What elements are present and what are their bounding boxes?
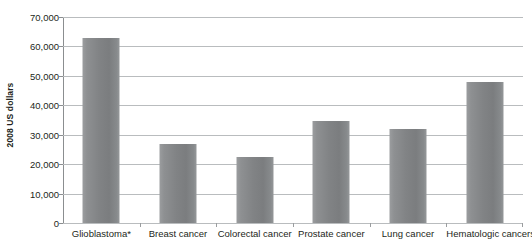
y-axis-tick-label: 70,000: [13, 12, 59, 23]
x-axis-category-label: Glioblastoma*: [63, 228, 140, 239]
x-axis-category-label: Hematologic cancers: [446, 228, 523, 239]
bar-slot: [293, 17, 370, 223]
bar: [83, 38, 120, 223]
y-axis-tick-label: 10,000: [13, 188, 59, 199]
x-axis-category-label: Prostate cancer: [293, 228, 370, 239]
x-axis-tick-mark: [293, 223, 294, 227]
bar-slot: [370, 17, 447, 223]
bar-chart: 2008 US dollars 010,00020,00030,00040,00…: [0, 0, 532, 250]
x-axis-tick-mark: [446, 223, 447, 227]
x-axis-category-label: Breast cancer: [140, 228, 217, 239]
bar-slot: [216, 17, 293, 223]
bar: [466, 82, 503, 223]
x-axis-tick-mark: [370, 223, 371, 227]
bar: [389, 129, 426, 223]
bar-slot: [140, 17, 217, 223]
bar-slot: [63, 17, 140, 223]
y-axis-tick-label: 60,000: [13, 41, 59, 52]
y-axis-tick-label: 40,000: [13, 100, 59, 111]
x-axis-tick-mark: [522, 223, 523, 227]
y-axis-tick-mark: [59, 223, 63, 224]
y-axis-tick-label: 50,000: [13, 70, 59, 81]
x-axis-category-labels: Glioblastoma*Breast cancerColorectal can…: [63, 228, 523, 250]
x-axis-category-label: Colorectal cancer: [216, 228, 293, 239]
x-axis-tick-mark: [216, 223, 217, 227]
bar: [159, 144, 196, 223]
bar: [236, 157, 273, 223]
bar-slot: [446, 17, 523, 223]
y-axis-tick-label: 0: [13, 218, 59, 229]
y-axis-tick-label: 30,000: [13, 129, 59, 140]
y-axis-tick-labels: 010,00020,00030,00040,00050,00060,00070,…: [13, 0, 59, 250]
x-axis-tick-mark: [140, 223, 141, 227]
plot-area: [63, 17, 523, 224]
y-axis-tick-label: 20,000: [13, 159, 59, 170]
bar: [313, 121, 350, 223]
x-axis-category-label: Lung cancer: [370, 228, 447, 239]
